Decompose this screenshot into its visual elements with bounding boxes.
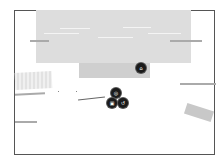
wall-segment xyxy=(180,83,216,85)
wave-line xyxy=(148,33,181,34)
rotate-marker-icon[interactable]: ↺ xyxy=(118,98,128,108)
wave-line xyxy=(123,27,151,28)
point xyxy=(76,91,77,92)
wave-line xyxy=(44,33,79,34)
wave-line xyxy=(98,37,133,38)
wall-segment xyxy=(170,40,202,42)
wave-line xyxy=(60,28,90,29)
home-marker-icon[interactable]: ⌂ xyxy=(136,63,146,73)
point xyxy=(58,91,59,92)
wall-segment xyxy=(15,121,37,123)
box-marker-icon[interactable]: ▣ xyxy=(107,98,117,108)
target-marker-icon[interactable]: ◎ xyxy=(111,88,121,98)
striped-zone xyxy=(15,71,53,90)
wall-segment xyxy=(30,40,49,42)
